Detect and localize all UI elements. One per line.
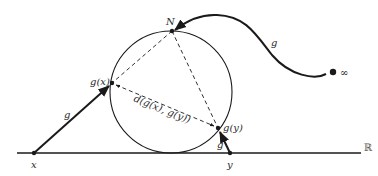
unit-circle [110, 31, 232, 153]
stereographic-diagram: N g(x) g(y) x y ℝ ∞ d(g(x), g(y)) g g g [0, 0, 378, 176]
label-real-line: ℝ [364, 142, 373, 153]
point-gx [110, 81, 114, 85]
label-gx: g(x) [90, 76, 110, 87]
label-x: x [31, 159, 37, 170]
label-g-left: g [64, 109, 70, 120]
map-x-to-gx [34, 86, 109, 153]
label-g-top: g [271, 37, 277, 48]
label-gy: g(y) [223, 122, 243, 133]
label-infinity: ∞ [340, 67, 348, 78]
point-y [228, 151, 232, 155]
point-n [170, 29, 174, 33]
label-y: y [226, 159, 233, 170]
point-gy [216, 126, 220, 130]
map-infinity-to-n [175, 15, 326, 77]
point-x [32, 151, 36, 155]
label-g-right: g [217, 139, 223, 150]
label-distance: d(g(x), g(y)) [132, 93, 192, 126]
point-infinity [330, 69, 336, 75]
label-n: N [165, 16, 176, 27]
